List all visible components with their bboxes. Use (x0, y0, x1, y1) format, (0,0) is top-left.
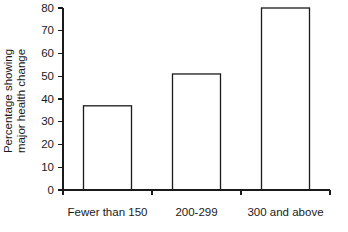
bar (84, 106, 132, 190)
x-axis-ticks (63, 190, 330, 195)
bar-chart: 01020304050607080 Fewer than 150200-2993… (0, 0, 348, 232)
x-tick-label: 200-299 (175, 206, 217, 218)
y-tick-labels: 01020304050607080 (41, 2, 54, 196)
x-tick-label: Fewer than 150 (68, 206, 148, 218)
bar (262, 8, 310, 190)
y-tick-label: 10 (41, 161, 54, 173)
y-axis-title: Percentage showing major health change (2, 49, 27, 153)
y-tick-label: 70 (41, 24, 54, 36)
y-tick-label: 50 (41, 70, 54, 82)
chart-canvas: 01020304050607080 Fewer than 150200-2993… (0, 0, 348, 232)
x-tick-labels: Fewer than 150200-299300 and above (68, 206, 324, 218)
y-tick-label: 30 (41, 115, 54, 127)
y-axis-ticks (58, 8, 63, 190)
y-tick-label: 0 (48, 184, 54, 196)
y-axis-title-line2: major health change (15, 49, 27, 153)
x-tick-label: 300 and above (247, 206, 323, 218)
y-tick-label: 60 (41, 47, 54, 59)
y-tick-label: 80 (41, 2, 54, 14)
bar (173, 74, 221, 190)
y-tick-label: 20 (41, 138, 54, 150)
y-axis-title-line1: Percentage showing (2, 49, 14, 153)
y-tick-label: 40 (41, 93, 54, 105)
bars-group (84, 8, 310, 190)
